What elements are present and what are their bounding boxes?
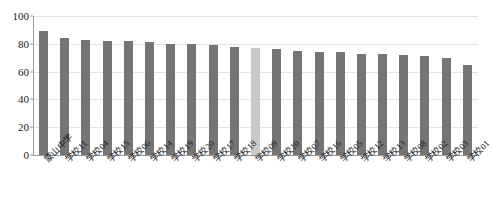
bar (124, 41, 133, 155)
bar-slot (351, 16, 372, 155)
x-label-slot: 学校15 (97, 157, 118, 207)
bar (39, 31, 48, 155)
bar-slot (75, 16, 96, 155)
bar-slot (414, 16, 435, 155)
bar-slot (160, 16, 181, 155)
x-label-slot: 学校11 (54, 157, 75, 207)
y-tick-mark (30, 99, 33, 100)
y-tick-label: 40 (18, 94, 29, 105)
plot-area (33, 16, 478, 155)
y-tick-mark (30, 127, 33, 128)
y-tick-mark (30, 155, 33, 156)
x-label-slot: 学校01 (457, 157, 478, 207)
bar-slot (308, 16, 329, 155)
y-tick-label: 100 (13, 11, 30, 22)
bar-slot (457, 16, 478, 155)
y-tick-mark (30, 43, 33, 44)
bar-slot (224, 16, 245, 155)
y-tick-mark (30, 16, 33, 17)
bar-slot (436, 16, 457, 155)
x-label-slot: 学校20 (181, 157, 202, 207)
bar (145, 42, 154, 155)
y-tick-label: 80 (18, 38, 29, 49)
y-axis-line (33, 16, 34, 156)
bar-slot (203, 16, 224, 155)
bar-slot (139, 16, 160, 155)
x-axis-labels: 蒙山中学学校11学校04学校15学校06学校14学校19学校20学校17学校18… (33, 157, 478, 207)
bar-slot (287, 16, 308, 155)
bar-slot (330, 16, 351, 155)
x-label-slot: 学校07 (287, 157, 308, 207)
y-tick-label: 60 (18, 66, 29, 77)
bar-slot (245, 16, 266, 155)
bar-slot (393, 16, 414, 155)
bar-slot (97, 16, 118, 155)
bar-slot (181, 16, 202, 155)
x-label-slot: 学校04 (75, 157, 96, 207)
y-tick-mark (30, 71, 33, 72)
x-label-slot: 学校14 (139, 157, 160, 207)
bar-slot (266, 16, 287, 155)
bar-slot (372, 16, 393, 155)
bar-series (33, 16, 478, 155)
x-label-slot: 学校03 (436, 157, 457, 207)
x-label-slot: 学校10 (266, 157, 287, 207)
x-label-slot: 学校19 (160, 157, 181, 207)
x-label-slot: 学校13 (372, 157, 393, 207)
y-tick-label: 0 (24, 150, 30, 161)
x-label-slot: 学校17 (203, 157, 224, 207)
x-label-slot: 学校08 (393, 157, 414, 207)
x-label-slot: 学校06 (118, 157, 139, 207)
bar-slot (33, 16, 54, 155)
x-label-slot: 学校18 (224, 157, 245, 207)
x-label-slot: 学校02 (414, 157, 435, 207)
x-label-slot: 学校09 (245, 157, 266, 207)
x-label-slot: 蒙山中学 (33, 157, 54, 207)
y-tick-label: 20 (18, 122, 29, 133)
x-label-slot: 学校16 (308, 157, 329, 207)
x-label-slot: 学校05 (330, 157, 351, 207)
x-label-slot: 学校12 (351, 157, 372, 207)
bar-slot (118, 16, 139, 155)
